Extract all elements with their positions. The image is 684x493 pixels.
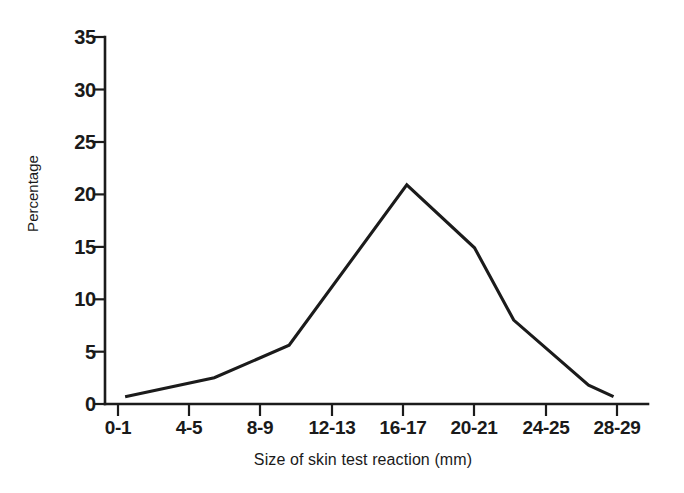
x-tick-label-20-21: 20-21 [450, 418, 497, 437]
x-tick-label-0-1: 0-1 [105, 418, 132, 437]
axes [105, 37, 648, 404]
x-axis-ticks [118, 404, 617, 416]
y-tick-label-25: 25 [74, 132, 96, 152]
x-tick-label-4-5: 4-5 [176, 418, 203, 437]
y-axis-title: Percentage [25, 134, 40, 254]
x-tick-label-16-17: 16-17 [379, 418, 426, 437]
x-axis-tick-labels: 0-1 4-5 8-9 12-13 16-17 20-21 24-25 28-2… [0, 418, 684, 446]
x-axis-title: Size of skin test reaction (mm) [0, 452, 684, 468]
data-series-line [125, 185, 613, 397]
skin-test-reaction-line-chart: 35 30 25 20 15 10 5 0 0-1 4-5 8-9 12-13 … [0, 0, 684, 493]
x-tick-label-12-13: 12-13 [308, 418, 355, 437]
y-tick-label-0: 0 [85, 394, 96, 414]
y-tick-label-10: 10 [74, 289, 96, 309]
y-tick-label-35: 35 [74, 27, 96, 47]
x-tick-label-8-9: 8-9 [247, 418, 274, 437]
y-tick-label-5: 5 [85, 342, 96, 362]
y-tick-label-15: 15 [74, 237, 96, 257]
x-tick-label-24-25: 24-25 [522, 418, 569, 437]
y-tick-label-20: 20 [74, 184, 96, 204]
x-axis-title-text: Size of skin test reaction (mm) [254, 452, 472, 468]
y-tick-label-30: 30 [74, 80, 96, 100]
x-tick-label-28-29: 28-29 [593, 418, 640, 437]
